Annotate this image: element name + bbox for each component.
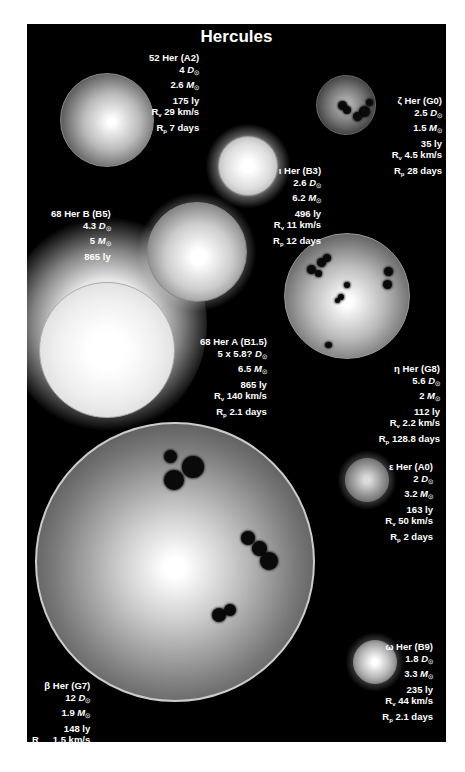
starspot	[325, 342, 332, 348]
starspot	[335, 298, 340, 303]
starspot	[344, 282, 350, 288]
label-iota-her: ι Her (B3) 2.6 D☉ 6.2 M☉ 496 ly Rv 11 km…	[273, 165, 321, 250]
diagram-title: Hercules	[27, 27, 446, 47]
star-epsilon-her	[345, 458, 389, 502]
starspot	[164, 450, 177, 463]
star-eta-her	[284, 233, 410, 359]
label-68-her-b: 68 Her B (B5) 4.3 D☉ 5 M☉ 865 ly	[51, 208, 111, 262]
label-zeta-her: ζ Her (G0) 2.5 D☉ 1.5 M☉ 35 ly Rv 4.5 km…	[392, 95, 442, 180]
starspot	[315, 270, 322, 277]
label-52-her: 52 Her (A2) 4 D☉ 2.6 M☉ 175 ly Rv 29 km/…	[149, 52, 199, 137]
star-68-her-a	[39, 282, 175, 418]
label-68-her-a: 68 Her A (B1.5) 5 x 5.8? D☉ 6.5 M☉ 865 l…	[200, 336, 267, 421]
label-eta-her: η Her (G8) 5.6 D☉ 2 M☉ 112 ly Rv 2.2 km/…	[379, 363, 440, 448]
label-epsilon-her: ε Her (A0) 2 D☉ 3.2 M☉ 163 ly Rv 50 km/s…	[385, 461, 433, 546]
star-iota-her	[218, 136, 278, 196]
starspot	[182, 456, 204, 478]
star-52-her	[60, 73, 154, 167]
starspot	[343, 106, 351, 114]
starspot	[260, 552, 278, 570]
hercules-diagram-panel: Hercules 52 Her (A2)	[27, 24, 446, 742]
starspot	[323, 254, 331, 262]
label-beta-her: β Her (G7) 12 D☉ 1.9 M☉ 148 ly Rv 1.5 km…	[29, 680, 90, 742]
starspot	[366, 99, 373, 106]
star-68-her-b	[147, 202, 247, 302]
starspot	[164, 470, 184, 490]
label-omega-her: ω Her (B9) 1.8 D☉ 3.3 M☉ 235 ly Rv 44 km…	[382, 641, 433, 726]
starspot	[353, 112, 362, 121]
starspot	[384, 267, 393, 276]
starspot	[383, 280, 392, 289]
starspot	[224, 604, 236, 616]
